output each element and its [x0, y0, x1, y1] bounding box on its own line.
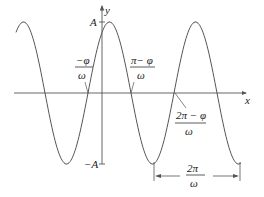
sinusoid-diagram: x y A −A −φ ω π− φ ω 2π − φ ω 2π	[0, 0, 264, 197]
x-axis-label: x	[244, 94, 250, 106]
svg-text:−φ: −φ	[76, 54, 90, 66]
svg-text:ω: ω	[190, 177, 198, 189]
y-axis-label: y	[104, 4, 110, 16]
leader-zero1	[85, 82, 88, 93]
y-min-label: −A	[84, 158, 98, 170]
label-zero2: π− φ ω	[130, 54, 155, 81]
leader-zero2	[131, 82, 134, 93]
svg-text:2π − φ: 2π − φ	[176, 109, 206, 121]
svg-text:ω: ω	[185, 125, 193, 137]
svg-text:ω: ω	[137, 69, 145, 81]
label-zero3: 2π − φ ω	[175, 109, 206, 137]
label-zero1: −φ ω	[75, 54, 93, 81]
svg-text:π− φ: π− φ	[131, 54, 153, 66]
leader-zero3	[175, 93, 186, 108]
y-max-label: A	[89, 16, 97, 28]
svg-text:2π: 2π	[187, 162, 199, 174]
period-dimension: 2π ω	[154, 162, 240, 189]
svg-text:ω: ω	[78, 69, 86, 81]
